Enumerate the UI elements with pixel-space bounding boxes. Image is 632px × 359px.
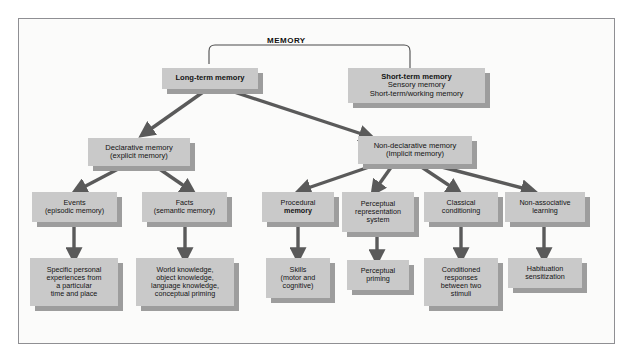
node-label: learning [532,207,558,215]
node-non-associative-learning[interactable]: Non-associative learning [505,192,585,222]
node-declarative-memory[interactable]: Declarative memory (explicit memory) [88,138,190,166]
node-short-term-memory[interactable]: Short-term memory Sensory memory Short-t… [348,68,485,103]
arrow-nondeclarative-perceptual [375,166,392,190]
node-procedural-memory[interactable]: Procedural memory [262,192,334,222]
node-label: Long-term memory [175,74,244,83]
node-perceptual-detail[interactable]: Perceptual priming [347,260,409,290]
node-non-declarative-memory[interactable]: Non-declarative memory (Implicit memory) [358,136,472,164]
arrow-declarative-facts [158,168,190,190]
arrow-longterm-nondeclarative [228,90,368,136]
node-label: priming [366,275,390,283]
node-label: (episodic memory) [45,207,104,215]
node-long-term-memory[interactable]: Long-term memory [162,68,258,89]
node-label: conditioning [442,207,480,215]
diagram-title: MEMORY [267,36,306,45]
node-classical-detail[interactable]: Conditioned responses between two stimul… [424,258,498,306]
node-label: cognitive) [283,282,314,290]
node-classical-conditioning[interactable]: Classical conditioning [424,192,498,222]
node-label: memory [284,207,312,215]
arrow-declarative-events [78,168,120,190]
node-procedural-detail[interactable]: Skills (motor and cognitive) [266,258,330,298]
node-facts[interactable]: Facts (semantic memory) [142,192,227,222]
node-label: (explicit memory) [110,152,168,161]
node-label: sensitization [525,273,565,281]
node-events-detail[interactable]: Specific personal experiences from a par… [30,258,118,306]
node-label: system [367,216,390,224]
node-label: (Implicit memory) [386,150,444,159]
arrow-longterm-declarative [145,90,206,133]
node-events[interactable]: Events (episodic memory) [32,192,117,222]
node-facts-detail[interactable]: World knowledge, object knowledge, langu… [136,258,234,306]
diagram-canvas: MEMORY Long-term memory Short-term memor… [0,0,632,359]
memory-bracket [209,45,410,68]
node-label: time and place [51,290,98,298]
node-non-associative-detail[interactable]: Habituation sensitization [508,258,582,288]
arrow-nondeclarative-procedural [302,166,372,190]
node-label: Short-term/working memory [370,90,464,99]
node-label: conceptual priming [155,290,215,298]
arrow-group [74,90,544,258]
node-perceptual-representation-system[interactable]: Perceptual representation system [342,192,414,232]
node-label: (semantic memory) [154,207,216,215]
node-label: stimuli [451,290,471,298]
